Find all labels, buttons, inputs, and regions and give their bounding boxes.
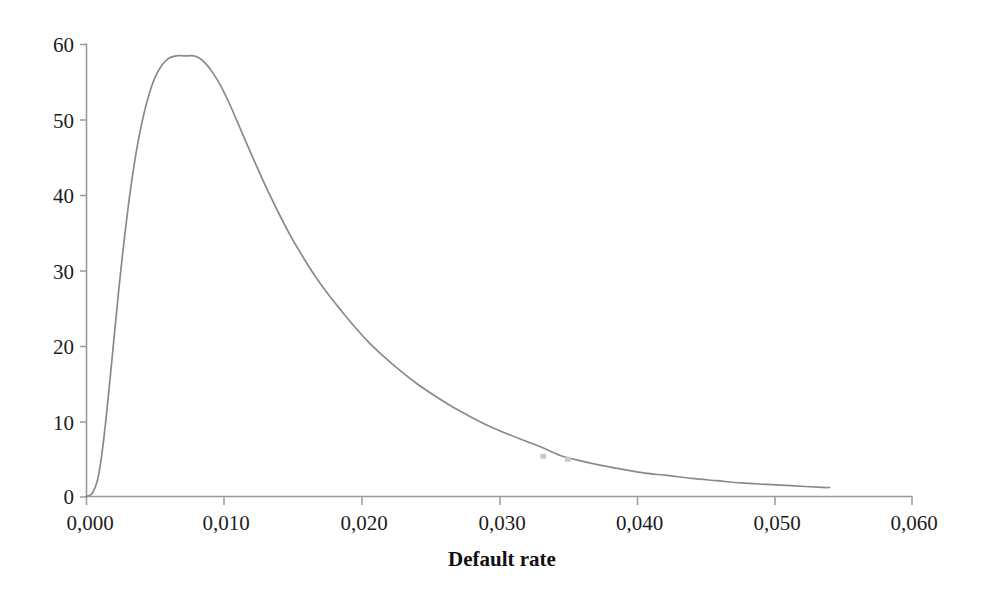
y-tick-label-50: 50 (53, 109, 74, 133)
x-tick-label-0010: 0,010 (202, 511, 249, 535)
y-axis-tick-labels: 60 50 40 30 20 10 0 (53, 33, 74, 509)
y-tick-label-60: 60 (53, 33, 74, 57)
y-tick-label-40: 40 (53, 184, 74, 208)
x-tick-label-0060: 0,060 (890, 511, 937, 535)
x-axis-ticks (87, 497, 913, 506)
density-curve (87, 56, 830, 497)
scan-artifacts (540, 454, 571, 462)
x-tick-label-0040: 0,040 (616, 511, 663, 535)
x-tick-label-0050: 0,050 (753, 511, 800, 535)
y-axis-ticks (80, 45, 87, 498)
y-tick-label-0: 0 (64, 485, 75, 509)
x-axis-tick-labels: 0,000 0,010 0,020 0,030 0,040 0,050 0,06… (66, 511, 937, 535)
y-tick-label-10: 10 (53, 411, 74, 435)
x-tick-label-0000: 0,000 (66, 511, 113, 535)
y-tick-label-30: 30 (53, 260, 74, 284)
x-tick-label-0020: 0,020 (340, 511, 387, 535)
scan-blot-2 (565, 457, 571, 462)
x-tick-label-0030: 0,030 (478, 511, 525, 535)
x-axis-title: Default rate (448, 547, 556, 571)
chart-page: 60 50 40 30 20 10 0 (0, 0, 983, 603)
scan-blot-1 (540, 454, 546, 459)
default-rate-density-chart: 60 50 40 30 20 10 0 (0, 0, 983, 603)
y-tick-label-20: 20 (53, 335, 74, 359)
